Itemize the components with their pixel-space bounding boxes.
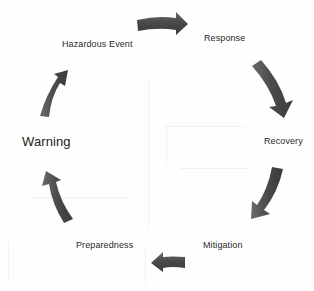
stage-label-mitigation: Mitigation (203, 241, 243, 250)
arrow-up-left-icon (42, 171, 73, 223)
arrow-down-left-icon (251, 167, 283, 219)
arrow-right-icon (137, 12, 188, 35)
stage-label-warning: Warning (22, 135, 71, 148)
stage-label-hazardous-event: Hazardous Event (62, 40, 133, 49)
arrow-up-right-icon (40, 70, 68, 117)
diagram-canvas: Hazardous Event Response Recovery Mitiga… (0, 0, 314, 291)
stage-label-preparedness: Preparedness (76, 241, 133, 250)
stage-label-recovery: Recovery (264, 137, 303, 146)
arrow-down-right-icon (252, 60, 293, 118)
stage-label-response: Response (204, 34, 245, 43)
arrow-left-icon (151, 252, 185, 272)
